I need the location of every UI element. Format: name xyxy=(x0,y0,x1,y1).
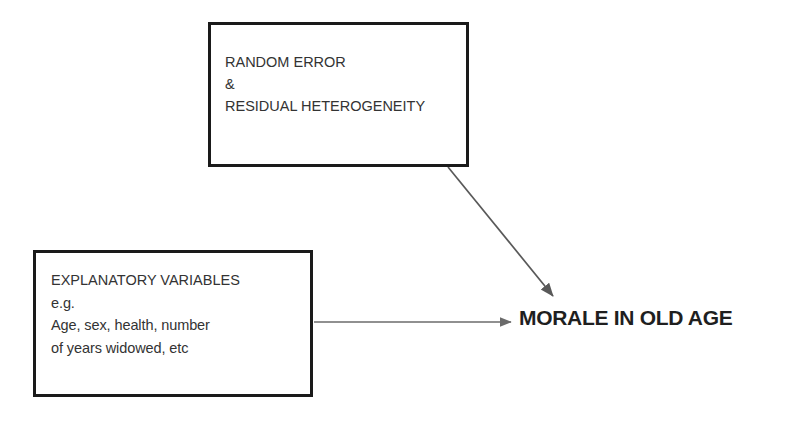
node-random-error-box: RANDOM ERROR & RESIDUAL HETEROGENEITY xyxy=(208,22,469,167)
node-random-error-line-2: & xyxy=(225,73,460,95)
node-explanatory-variables-text: EXPLANATORY VARIABLES e.g. Age, sex, hea… xyxy=(51,269,304,359)
arrow-random-error-to-outcome xyxy=(448,167,553,296)
node-explanatory-variables-box: EXPLANATORY VARIABLES e.g. Age, sex, hea… xyxy=(33,250,313,397)
node-explanatory-line-2: e.g. xyxy=(51,292,304,315)
node-random-error-line-3: RESIDUAL HETEROGENEITY xyxy=(225,95,460,117)
node-explanatory-line-3: Age, sex, health, number xyxy=(51,314,304,337)
diagram-canvas: RANDOM ERROR & RESIDUAL HETEROGENEITY EX… xyxy=(0,0,809,425)
node-explanatory-line-1: EXPLANATORY VARIABLES xyxy=(51,269,304,292)
node-explanatory-line-4: of years widowed, etc xyxy=(51,337,304,360)
node-random-error-text: RANDOM ERROR & RESIDUAL HETEROGENEITY xyxy=(225,51,460,117)
node-random-error-line-1: RANDOM ERROR xyxy=(225,51,460,73)
node-outcome-label: MORALE IN OLD AGE xyxy=(519,306,732,330)
